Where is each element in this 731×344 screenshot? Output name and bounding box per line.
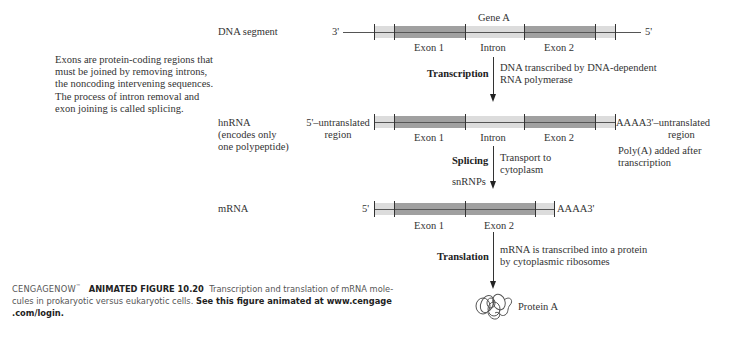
desc-line: mRNA is transcribed into a protein (500, 244, 647, 256)
dna-exon-1-label: Exon 1 (404, 42, 454, 54)
mrna-strand (374, 203, 554, 215)
tick (595, 114, 596, 130)
polya-note: Poly(A) added after transcription (618, 145, 701, 169)
tick (465, 201, 466, 217)
tick (615, 24, 616, 40)
mrna-center-line (374, 209, 554, 210)
dna-center-line (343, 32, 641, 33)
transcription-description: DNA transcribed by DNA-dependent RNA pol… (500, 62, 657, 86)
note-line: Poly(A) added after (618, 145, 701, 157)
note-line: Exons are protein-coding regions that (55, 54, 235, 66)
transcription-arrow-line (493, 57, 494, 95)
brand-trademark: ™ (76, 283, 81, 289)
splicing-arrow-line (493, 146, 494, 182)
tick (394, 24, 395, 40)
mrna-5prime-end: 5' (362, 203, 369, 215)
tick (374, 24, 375, 40)
translation-label: Translation (437, 251, 489, 263)
translation-description: mRNA is transcribed into a protein by cy… (500, 244, 647, 268)
label-line: AAAA3'–untranslated (616, 117, 710, 129)
arrow-down-icon (490, 281, 496, 289)
caption-line-2: cules in prokaryotic versus eukaryotic c… (12, 295, 393, 307)
desc-line: Transport to (500, 152, 551, 164)
label-line: (encodes only (218, 129, 289, 141)
dna-exon-2-label: Exon 2 (534, 42, 584, 54)
hnrna-strand (374, 116, 615, 128)
caption-line-1: CENGAGENOW™ ANIMATED FIGURE 10.20 Transc… (12, 280, 393, 295)
figure-caption: CENGAGENOW™ ANIMATED FIGURE 10.20 Transc… (12, 280, 393, 319)
arrow-down-icon (490, 181, 496, 189)
desc-line: DNA transcribed by DNA-dependent (500, 62, 657, 74)
hnrna-center-line (374, 122, 615, 123)
caption-text: cules in prokaryotic versus eukaryotic c… (12, 296, 193, 306)
animation-link[interactable]: See this figure animated at www.cengage (196, 296, 392, 306)
translation-arrow-line (493, 232, 494, 282)
desc-line: by cytoplasmic ribosomes (500, 256, 647, 268)
tick (465, 24, 466, 40)
splicing-label: Splicing (452, 155, 488, 167)
label-line: hnRNA (218, 117, 289, 129)
splicing-description: Transport to cytoplasm (500, 152, 551, 176)
caption-text: Transcription and translation of mRNA mo… (209, 284, 393, 294)
hnrna-exon-1-label: Exon 1 (404, 132, 454, 144)
note-line: must be joined by removing introns, (55, 66, 235, 78)
note-line: transcription (618, 157, 701, 169)
tick (394, 201, 395, 217)
note-line: The process of intron removal and (55, 91, 235, 103)
arrow-down-icon (490, 94, 496, 102)
label-line: 5'–untranslated (302, 117, 374, 129)
desc-line: cytoplasm (500, 164, 551, 176)
label-line: region (302, 129, 374, 141)
dna-intron-label: Intron (470, 42, 516, 54)
snrnps-label: snRNPs (452, 176, 486, 188)
note-line: exon joining is called splicing. (55, 103, 235, 115)
hnrna-row-label: hnRNA (encodes only one polypeptide) (218, 117, 289, 153)
brand-name: CENGAGENOW (12, 284, 76, 294)
tick (465, 114, 466, 130)
dna-row-label: DNA segment (218, 26, 278, 38)
hnrna-intron-label: Intron (470, 132, 516, 144)
figure-number: ANIMATED FIGURE 10.20 (89, 284, 204, 294)
tick (374, 114, 375, 130)
mrna-polya-tail: AAAA3' (557, 203, 594, 215)
hnrna-exon-2-label: Exon 2 (534, 132, 584, 144)
mrna-exon-1-label: Exon 1 (404, 220, 454, 232)
protein-coil-icon (474, 291, 516, 323)
tick (524, 114, 525, 130)
tick (554, 201, 555, 217)
hnrna-5prime-utr-label: 5'–untranslated region (302, 117, 374, 141)
tick (595, 24, 596, 40)
label-line: one polypeptide) (218, 141, 289, 153)
caption-line-3: .com/login. (12, 307, 393, 319)
transcription-label: Transcription (427, 68, 489, 80)
hnrna-3prime-utr-label: AAAA3'–untranslated region (616, 117, 710, 141)
mrna-exon-2-label: Exon 2 (474, 220, 524, 232)
exon-explanation-note: Exons are protein-coding regions that mu… (55, 54, 235, 115)
label-line: region (616, 129, 710, 141)
dna-3prime-end: 3' (332, 26, 339, 38)
note-line: the noncoding intervening sequences. (55, 78, 235, 90)
tick (394, 114, 395, 130)
gene-label: Gene A (478, 12, 510, 24)
mrna-row-label: mRNA (218, 203, 248, 215)
tick (374, 201, 375, 217)
dna-strand (343, 26, 641, 38)
animation-link-continued[interactable]: .com/login. (12, 308, 64, 318)
protein-label: Protein A (518, 301, 558, 313)
dna-5prime-end: 5' (645, 26, 652, 38)
desc-line: RNA polymerase (500, 74, 657, 86)
tick (524, 24, 525, 40)
tick (535, 201, 536, 217)
